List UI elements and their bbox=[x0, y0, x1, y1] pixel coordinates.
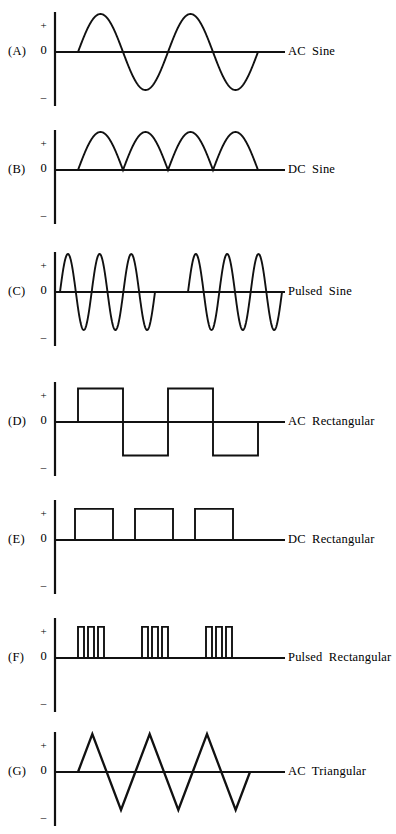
waveform-panel-dc-rectangular: (E)+0–DC Rectangular bbox=[0, 494, 396, 606]
axis-tick-negative-pulsed-rectangular: – bbox=[36, 698, 51, 709]
axis-tick-positive-pulsed-sine: + bbox=[36, 260, 51, 271]
waveform-panel-dc-sine: (B)+0–DC Sine bbox=[0, 124, 396, 236]
waveform-label-dc-sine: DC Sine bbox=[288, 162, 335, 177]
waveform-panel-ac-triangular: (G)+0–AC Triangular bbox=[0, 726, 396, 834]
waveform-label-pulsed-rectangular: Pulsed Rectangular bbox=[288, 650, 391, 665]
axis-tick-zero-ac-sine: 0 bbox=[36, 44, 51, 57]
axis-tick-zero-dc-rectangular: 0 bbox=[36, 532, 51, 545]
axis-tick-negative-pulsed-sine: – bbox=[36, 332, 51, 343]
axis-tick-positive-dc-rectangular: + bbox=[36, 508, 51, 519]
waveform-label-dc-rectangular: DC Rectangular bbox=[288, 532, 375, 547]
axis-tick-zero-ac-rectangular: 0 bbox=[36, 414, 51, 427]
waveform-panel-ac-sine: (A)+0–AC Sine bbox=[0, 6, 396, 118]
axis-tick-negative-ac-sine: – bbox=[36, 92, 51, 103]
axis-tick-zero-pulsed-rectangular: 0 bbox=[36, 650, 51, 663]
plot-area-dc-sine bbox=[50, 124, 295, 236]
axis-tick-positive-ac-triangular: + bbox=[36, 740, 51, 751]
waveform-label-ac-triangular: AC Triangular bbox=[288, 764, 366, 779]
axis-tick-negative-dc-sine: – bbox=[36, 210, 51, 221]
waveform-trace-dc-rectangular bbox=[75, 509, 233, 540]
plot-area-dc-rectangular bbox=[50, 494, 295, 606]
axis-tick-zero-pulsed-sine: 0 bbox=[36, 284, 51, 297]
axis-tick-positive-ac-rectangular: + bbox=[36, 390, 51, 401]
plot-area-ac-sine bbox=[50, 6, 295, 118]
axis-tick-positive-dc-sine: + bbox=[36, 138, 51, 149]
waveform-panel-ac-rectangular: (D)+0–AC Rectangular bbox=[0, 376, 396, 488]
waveform-figure: (A)+0–AC Sine(B)+0–DC Sine(C)+0–Pulsed S… bbox=[0, 0, 396, 834]
axis-tick-negative-ac-rectangular: – bbox=[36, 462, 51, 473]
plot-area-ac-triangular bbox=[50, 726, 295, 834]
waveform-label-ac-rectangular: AC Rectangular bbox=[288, 414, 375, 429]
waveform-label-ac-sine: AC Sine bbox=[288, 44, 335, 59]
waveform-panel-pulsed-sine: (C)+0–Pulsed Sine bbox=[0, 246, 396, 358]
waveform-panel-pulsed-rectangular: (F)+0–Pulsed Rectangular bbox=[0, 612, 396, 724]
waveform-label-pulsed-sine: Pulsed Sine bbox=[288, 284, 352, 299]
waveform-trace-dc-sine bbox=[78, 132, 258, 170]
axis-tick-positive-ac-sine: + bbox=[36, 20, 51, 31]
axis-tick-negative-ac-triangular: – bbox=[36, 812, 51, 823]
plot-area-pulsed-sine bbox=[50, 246, 295, 358]
axis-tick-zero-ac-triangular: 0 bbox=[36, 764, 51, 777]
plot-area-ac-rectangular bbox=[50, 376, 295, 488]
waveform-trace-pulsed-rectangular bbox=[78, 627, 232, 658]
axis-tick-positive-pulsed-rectangular: + bbox=[36, 626, 51, 637]
axis-tick-zero-dc-sine: 0 bbox=[36, 162, 51, 175]
axis-tick-negative-dc-rectangular: – bbox=[36, 580, 51, 591]
plot-area-pulsed-rectangular bbox=[50, 612, 295, 724]
